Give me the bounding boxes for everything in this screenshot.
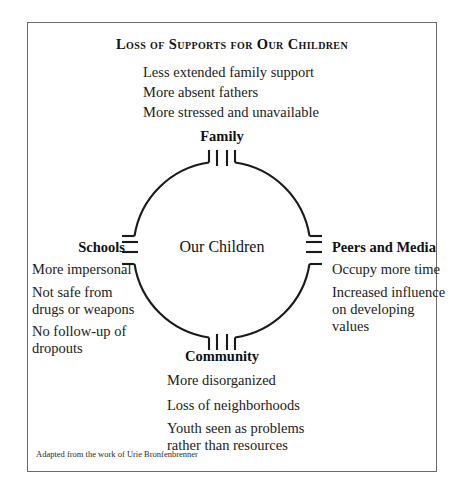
list-item: Loss of neighborhoods: [167, 395, 304, 415]
list-item: More impersonal: [32, 260, 134, 279]
figure-credit: Adapted from the work of Urie Bronfenbre…: [36, 449, 198, 459]
list-item-cont: on developing: [332, 301, 445, 318]
figure-title: Loss of Supports for Our Children: [27, 36, 437, 53]
items-schools: More impersonal Not safe from drugs or w…: [32, 260, 134, 357]
list-item: Increased influence: [332, 284, 445, 301]
node-label-peers: Peers and Media: [332, 239, 436, 256]
node-label-schools: Schools: [0, 239, 125, 256]
list-item: More absent fathers: [143, 82, 319, 102]
list-item: More disorganized: [167, 370, 304, 390]
items-family: Less extended family support More absent…: [143, 62, 319, 122]
list-item: Occupy more time: [332, 260, 445, 279]
list-item: No follow-up of: [32, 323, 134, 340]
list-item-cont: dropouts: [32, 340, 134, 357]
list-item-cont: values: [332, 318, 445, 335]
list-item: Not safe from: [32, 284, 134, 301]
list-item: More stressed and unavailable: [143, 102, 319, 122]
list-item: Youth seen as problems: [167, 420, 304, 437]
list-item: Less extended family support: [143, 62, 319, 82]
figure-root: Loss of Supports for Our Children: [0, 0, 466, 497]
node-label-family: Family: [0, 128, 444, 145]
items-peers-and-media: Occupy more time Increased influence on …: [332, 260, 445, 335]
items-community: More disorganized Loss of neighborhoods …: [167, 370, 304, 454]
list-item-cont: drugs or weapons: [32, 301, 134, 318]
